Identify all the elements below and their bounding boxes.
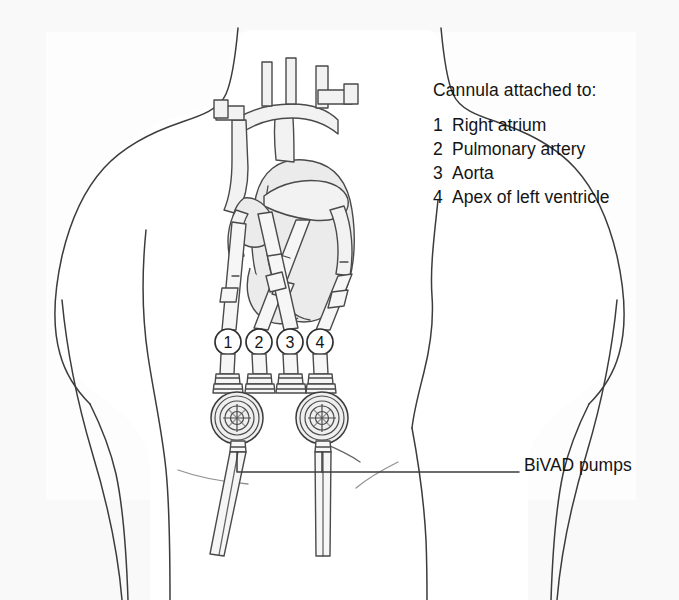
cannula-marker-1: 1 — [215, 329, 241, 355]
legend-item-3: 3 Aorta — [433, 162, 679, 186]
legend-item-label: Aorta — [452, 162, 494, 186]
legend-item-label: Pulmonary artery — [452, 138, 585, 162]
legend-block: Cannula attached to: 1 Right atrium 2 Pu… — [433, 80, 679, 210]
legend-item-number: 2 — [433, 138, 452, 162]
legend-item-4: 4 Apex of left ventricle — [433, 186, 679, 210]
legend-item-label: Right atrium — [452, 114, 546, 138]
cannula-marker-3: 3 — [277, 329, 303, 355]
cannula-marker-4: 4 — [307, 329, 333, 355]
svg-text:2: 2 — [255, 334, 264, 351]
svg-text:4: 4 — [316, 334, 325, 351]
legend-item-label: Apex of left ventricle — [452, 186, 610, 210]
bivad-pumps-callout-label: BiVAD pumps — [524, 455, 632, 476]
svg-text:1: 1 — [224, 334, 233, 351]
bivad-diagram-figure: .ln { fill:none; stroke:#3c3c3c; stroke-… — [0, 0, 679, 600]
legend-item-number: 1 — [433, 114, 452, 138]
legend-item-2: 2 Pulmonary artery — [433, 138, 679, 162]
svg-text:3: 3 — [286, 334, 295, 351]
legend-list: 1 Right atrium 2 Pulmonary artery 3 Aort… — [433, 114, 679, 210]
legend-item-number: 4 — [433, 186, 452, 210]
legend-heading: Cannula attached to: — [433, 80, 679, 101]
legend-item-1: 1 Right atrium — [433, 114, 679, 138]
cannula-marker-2: 2 — [246, 329, 272, 355]
legend-item-number: 3 — [433, 162, 452, 186]
